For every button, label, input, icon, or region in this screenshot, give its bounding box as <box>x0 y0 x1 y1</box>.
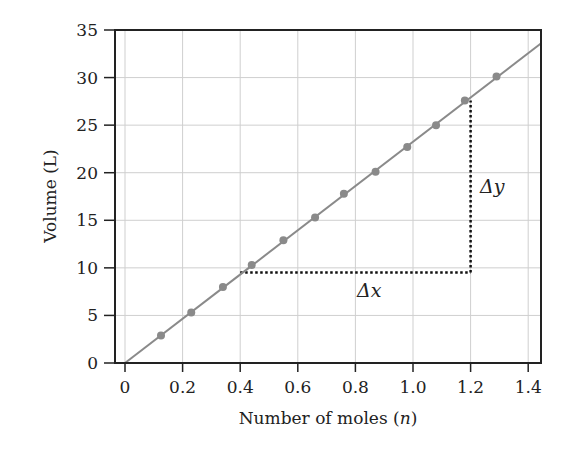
y-tick-label: 30 <box>76 68 98 88</box>
y-tick-label: 20 <box>76 163 98 183</box>
data-point <box>403 143 411 151</box>
y-tick-label: 25 <box>76 115 98 135</box>
x-tick-label: 0 <box>120 377 131 397</box>
x-tick-label: 0.4 <box>227 377 254 397</box>
x-tick-label: 1.0 <box>399 377 426 397</box>
data-point <box>311 213 319 221</box>
data-point <box>432 121 440 129</box>
x-axis-label: Number of moles (n) <box>239 408 418 428</box>
data-point <box>219 283 227 291</box>
volume-moles-chart: 00.20.40.60.81.01.21.4 05101520253035 Vo… <box>0 0 574 454</box>
data-point <box>157 331 165 339</box>
x-tick-label: 0.6 <box>284 377 311 397</box>
data-point <box>248 261 256 269</box>
y-tick-label: 10 <box>76 258 98 278</box>
data-point <box>187 309 195 317</box>
y-tick-label: 35 <box>76 20 98 40</box>
x-tick-label: 0.8 <box>342 377 369 397</box>
x-tick-label: 1.2 <box>457 377 484 397</box>
delta-x-label: Δx <box>356 279 382 301</box>
grid-lines <box>115 30 541 363</box>
plot-frame <box>115 30 541 363</box>
x-tick-label: 0.2 <box>169 377 196 397</box>
y-axis-ticks: 05101520253035 <box>76 20 115 373</box>
data-point <box>493 73 501 81</box>
delta-y-label: Δy <box>479 175 505 197</box>
data-point <box>461 96 469 104</box>
data-point <box>372 168 380 176</box>
x-axis-ticks: 00.20.40.60.81.01.21.4 <box>120 363 542 397</box>
y-axis-label: Volume (L) <box>40 149 60 243</box>
x-tick-label: 1.4 <box>515 377 542 397</box>
data-point <box>340 190 348 198</box>
y-tick-label: 5 <box>87 305 98 325</box>
y-tick-label: 0 <box>87 353 98 373</box>
y-tick-label: 15 <box>76 210 98 230</box>
data-point <box>279 236 287 244</box>
